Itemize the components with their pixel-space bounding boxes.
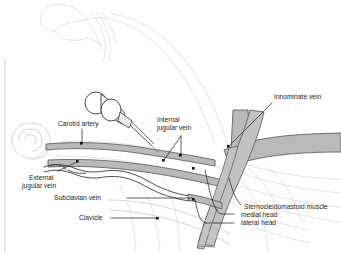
dot-internal-jugular-needle [162, 159, 165, 162]
anatomical-figure: Carotid artery Internal jugular vein Inn… [0, 0, 341, 253]
label-innominate-vein: Innominate vein [274, 93, 321, 101]
dot-external-jugular [76, 160, 79, 163]
internal-jugular-vein [48, 159, 226, 188]
label-internal-jugular-vein-line1: Internal [157, 116, 179, 124]
label-sternocleidomastoid-medial-head: medial head [241, 211, 277, 219]
label-carotid-artery: Carotid artery [58, 120, 99, 128]
dot-innominate-vein [227, 145, 230, 148]
label-sternocleidomastoid-muscle: Sternocleidomastoid muscle [244, 203, 328, 211]
label-subclavian-vein: Subclavian vein [54, 194, 101, 202]
label-external-jugular-vein-line1: External [29, 174, 54, 182]
patient-ear-outline [12, 123, 50, 159]
label-sternocleidomastoid-lateral-head: lateral head [241, 219, 276, 227]
dot-clavicle [156, 217, 159, 220]
dot-carotid-artery [80, 142, 83, 145]
label-internal-jugular-vein-line2: jugular vein [157, 124, 191, 132]
dot-subclavian-confluence [192, 198, 195, 201]
dot-subclavian-vein [192, 167, 195, 170]
label-clavicle: Clavicle [79, 214, 103, 222]
dot-internal-jugular-band [179, 154, 182, 157]
label-external-jugular-vein-line2: jugular vein [22, 182, 56, 190]
